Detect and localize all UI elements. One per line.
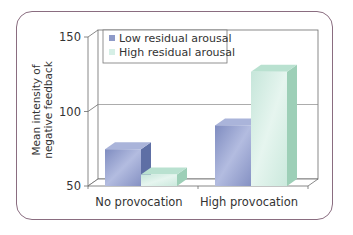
legend-swatch <box>109 35 115 41</box>
bar-chart: 50100150No provocationHigh provocationMe… <box>0 0 353 235</box>
y-tick-label: 100 <box>59 105 81 119</box>
legend-swatch <box>109 49 115 55</box>
legend-label: Low residual arousal <box>119 32 232 45</box>
y-axis-title: Mean intensity ofnegative feedback <box>30 60 54 158</box>
bar-1-1 <box>251 65 297 186</box>
legend: Low residual arousalHigh residual arousa… <box>103 30 235 63</box>
y-tick-label: 50 <box>66 179 81 193</box>
bar-0-1 <box>141 168 187 186</box>
x-category-label: No provocation <box>95 195 182 209</box>
legend-label: High residual arousal <box>119 46 235 59</box>
y-tick-label: 150 <box>59 30 81 44</box>
x-category-label: High provocation <box>200 195 298 209</box>
